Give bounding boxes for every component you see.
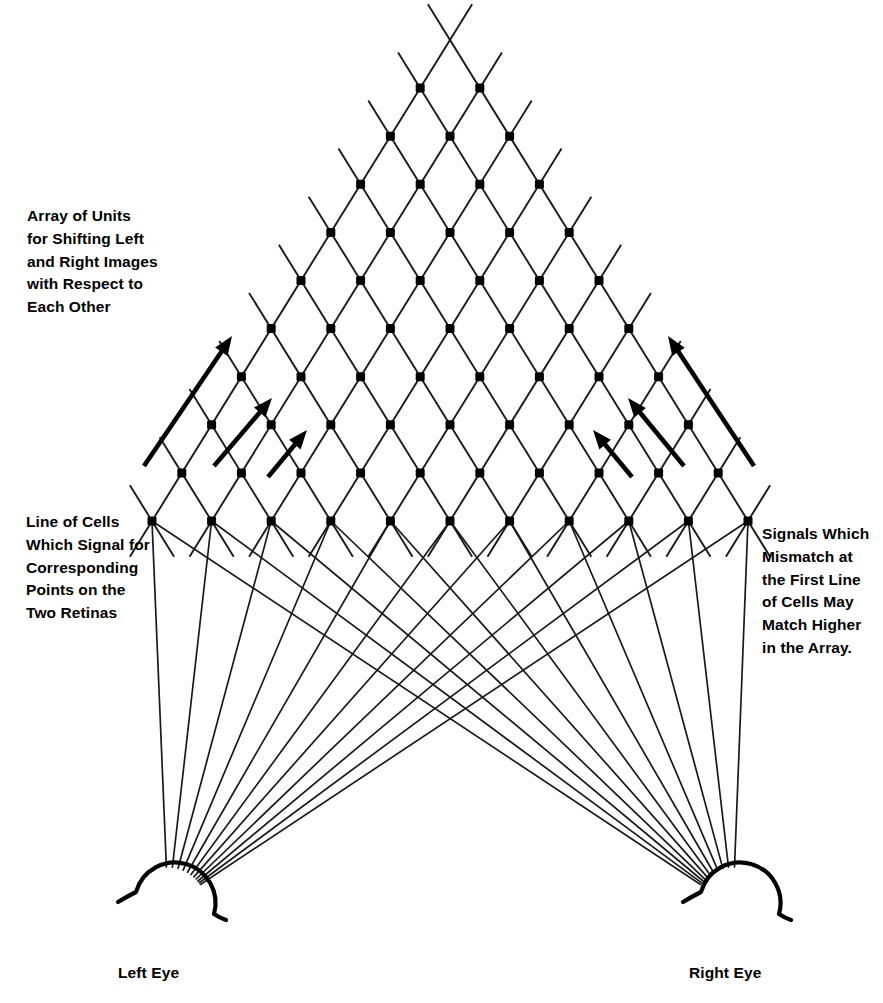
label-right-eye: Right Eye: [689, 962, 761, 985]
lattice-node: [297, 372, 306, 381]
lattice-node: [535, 468, 544, 477]
lattice-node: [505, 324, 514, 333]
lattice-node: [297, 276, 306, 285]
lattice-node: [624, 420, 633, 429]
lattice-node: [505, 132, 514, 141]
lattice-node: [565, 228, 574, 237]
lattice-node: [565, 324, 574, 333]
lattice-node: [416, 372, 425, 381]
lattice-node: [386, 228, 395, 237]
lattice-node: [475, 372, 484, 381]
lattice-node: [624, 324, 633, 333]
lattice-node: [565, 517, 574, 526]
lattice-node: [535, 276, 544, 285]
label-array-of-units: Array of Units for Shifting Left and Rig…: [27, 205, 217, 319]
label-line-of-cells: Line of Cells Which Signal for Correspon…: [26, 511, 211, 625]
lattice-node: [446, 517, 455, 526]
lattice-node: [744, 517, 753, 526]
lattice-node: [505, 228, 514, 237]
lattice-node: [416, 84, 425, 93]
lattice-node: [446, 132, 455, 141]
lattice-node: [177, 468, 186, 477]
lattice-node: [446, 420, 455, 429]
lattice-node: [237, 372, 246, 381]
lattice-node: [446, 228, 455, 237]
stereo-matching-diagram: [0, 0, 883, 1003]
lattice-node: [475, 180, 484, 189]
lattice-node: [684, 517, 693, 526]
lattice-node: [386, 420, 395, 429]
lattice-node: [416, 468, 425, 477]
lattice-node: [326, 324, 335, 333]
lattice-node: [297, 468, 306, 477]
lattice-node: [356, 468, 365, 477]
lattice-node: [475, 468, 484, 477]
lattice-node: [356, 372, 365, 381]
lattice-node: [654, 372, 663, 381]
lattice-node: [624, 517, 633, 526]
lattice-node: [595, 468, 604, 477]
lattice-node: [505, 517, 514, 526]
lattice-node: [386, 324, 395, 333]
lattice-node: [714, 468, 723, 477]
lattice-node: [446, 324, 455, 333]
lattice-node: [595, 372, 604, 381]
lattice-node: [535, 180, 544, 189]
lattice-node: [654, 468, 663, 477]
lattice-node: [237, 468, 246, 477]
lattice-node: [475, 276, 484, 285]
lattice-node: [267, 324, 276, 333]
lattice-node: [535, 372, 544, 381]
lattice-node: [267, 420, 276, 429]
label-mismatch-note: Signals Which Mismatch at the First Line…: [762, 523, 883, 660]
lattice-node: [565, 420, 574, 429]
lattice-node: [505, 420, 514, 429]
lattice-node: [416, 276, 425, 285]
lattice-node: [267, 517, 276, 526]
lattice-node: [326, 420, 335, 429]
label-left-eye: Left Eye: [118, 962, 179, 985]
lattice-node: [356, 180, 365, 189]
lattice-node: [386, 517, 395, 526]
lattice-node: [475, 84, 484, 93]
lattice-node: [326, 228, 335, 237]
lattice-node: [207, 420, 216, 429]
lattice-node: [684, 420, 693, 429]
lattice-node: [326, 517, 335, 526]
lattice-node: [386, 132, 395, 141]
lattice-node: [416, 180, 425, 189]
lattice-node: [356, 276, 365, 285]
lattice-node: [595, 276, 604, 285]
